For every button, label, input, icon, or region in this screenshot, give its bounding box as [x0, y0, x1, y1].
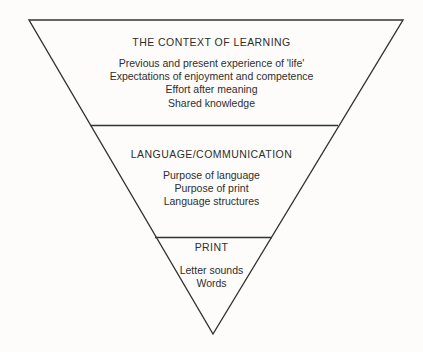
layer-context-of-learning: THE CONTEXT OF LEARNING Previous and pre…	[0, 36, 423, 110]
layer-language-item: Purpose of print	[0, 182, 423, 195]
layer-language-item: Language structures	[0, 195, 423, 208]
layer-language-title: LANGUAGE/COMMUNICATION	[0, 148, 423, 160]
layer-print-item: Words	[0, 277, 423, 290]
layer-print-items: Letter sounds Words	[0, 264, 423, 290]
layer-language-item: Purpose of language	[0, 169, 423, 182]
layer-context-title: THE CONTEXT OF LEARNING	[0, 36, 423, 48]
layer-print-title: PRINT	[0, 241, 423, 253]
layer-language-communication: LANGUAGE/COMMUNICATION Purpose of langua…	[0, 148, 423, 209]
layer-context-item: Effort after meaning	[0, 83, 423, 96]
layer-context-item: Previous and present experience of 'life…	[0, 57, 423, 70]
layer-context-item: Expectations of enjoyment and competence	[0, 70, 423, 83]
layer-language-items: Purpose of language Purpose of print Lan…	[0, 169, 423, 209]
layer-context-items: Previous and present experience of 'life…	[0, 57, 423, 110]
layer-print-item: Letter sounds	[0, 264, 423, 277]
layer-context-item: Shared knowledge	[0, 97, 423, 110]
layer-print: PRINT Letter sounds Words	[0, 241, 423, 290]
diagram-container: THE CONTEXT OF LEARNING Previous and pre…	[0, 0, 423, 352]
